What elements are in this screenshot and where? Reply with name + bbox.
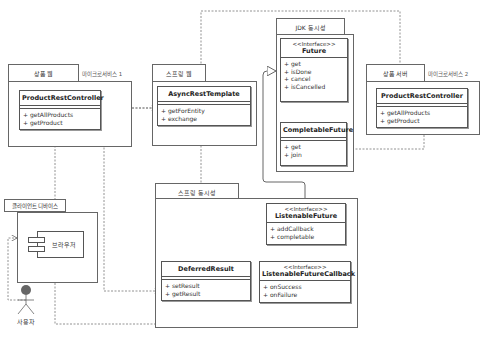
class-name: <<Interface>> ListenableFutureCallback	[260, 262, 350, 281]
class-name: <<Interface>> ListenableFuture	[267, 204, 345, 223]
method: getForEntity	[161, 107, 247, 115]
method: isDone	[284, 68, 344, 76]
class-completable-future[interactable]: CompletableFuture get join	[280, 122, 347, 166]
microservice-2-note: 마이크로서비스 2	[428, 70, 468, 78]
interface-name: Future	[302, 47, 326, 55]
package-label: JDK 동시성	[295, 24, 325, 31]
method: get	[284, 60, 344, 68]
class-name: AsyncRestTemplate	[158, 87, 250, 102]
class-name: CompletableFuture	[281, 123, 346, 138]
package-tab-jdk-concurrency: JDK 동시성	[276, 18, 345, 35]
interface-name: ListenableFuture	[275, 212, 337, 220]
interface-listenable-future-callback[interactable]: <<Interface>> ListenableFutureCallback o…	[259, 261, 351, 303]
method: getProduct	[23, 119, 97, 127]
method: isCancelled	[284, 83, 344, 91]
class-async-rest-template[interactable]: AsyncRestTemplate getForEntity exchange	[157, 86, 251, 126]
class-product-rest-controller-1[interactable]: ProductRestController getAllProducts get…	[19, 90, 101, 130]
package-label: 스프링 동시성	[178, 189, 216, 196]
class-name: ProductRestController	[20, 91, 100, 106]
methods-compartment: getAllProducts getProduct	[377, 107, 467, 126]
method: completable	[270, 233, 342, 241]
package-tab-product-web: 상품 웹	[8, 64, 79, 82]
interface-name: ListenableFutureCallback	[262, 270, 355, 278]
package-tab-spring-concurrency: 스프링 동시성	[155, 183, 239, 199]
actor-label: 사용자	[14, 317, 38, 326]
microservice-1-note: 마이크로서비스 1	[82, 70, 122, 78]
method: getResult	[165, 290, 247, 298]
package-label: 상품 웹	[34, 70, 54, 77]
component-label: 브라우저	[52, 240, 76, 249]
actor-body-icon	[14, 294, 38, 318]
package-tab-product-server: 상품 서버	[366, 64, 425, 82]
interface-future[interactable]: <<Interface>> Future get isDone cancel i…	[280, 38, 348, 102]
class-name: ProductRestController	[377, 89, 467, 104]
component-port-icon	[28, 246, 45, 252]
methods-compartment: onSuccess onFailure	[260, 281, 350, 300]
class-product-rest-controller-2[interactable]: ProductRestController getAllProducts get…	[376, 88, 468, 128]
method: onSuccess	[263, 283, 347, 291]
class-name: <<Interface>> Future	[281, 39, 347, 58]
method: addCallback	[270, 225, 342, 233]
method: get	[284, 143, 343, 151]
method: cancel	[284, 75, 344, 83]
method: getAllProducts	[23, 111, 97, 119]
component-port-icon	[28, 237, 45, 243]
interface-listenable-future[interactable]: <<Interface>> ListenableFuture addCallba…	[266, 203, 346, 245]
class-deferred-result[interactable]: DeferredResult setResult getResult	[161, 261, 251, 301]
method: getAllProducts	[380, 109, 464, 117]
package-label: 스프링 웹	[166, 70, 192, 77]
methods-compartment: setResult getResult	[162, 280, 250, 299]
package-tab-spring-web: 스프링 웹	[152, 64, 206, 82]
method: exchange	[161, 115, 247, 123]
method: getProduct	[380, 117, 464, 125]
package-tab-client-device: 클라이언트 디바이스	[4, 199, 66, 212]
package-label: 클라이언트 디바이스	[12, 203, 59, 209]
methods-compartment: addCallback completable	[267, 223, 345, 242]
methods-compartment: getAllProducts getProduct	[20, 109, 100, 128]
method: setResult	[165, 282, 247, 290]
method: onFailure	[263, 291, 347, 299]
component-browser[interactable]: 브라우저	[37, 231, 84, 258]
package-label: 상품 서버	[383, 70, 409, 77]
methods-compartment: getForEntity exchange	[158, 105, 250, 124]
method: join	[284, 151, 343, 159]
class-name: DeferredResult	[162, 262, 250, 277]
methods-compartment: get join	[281, 141, 346, 160]
methods-compartment: get isDone cancel isCancelled	[281, 58, 347, 92]
